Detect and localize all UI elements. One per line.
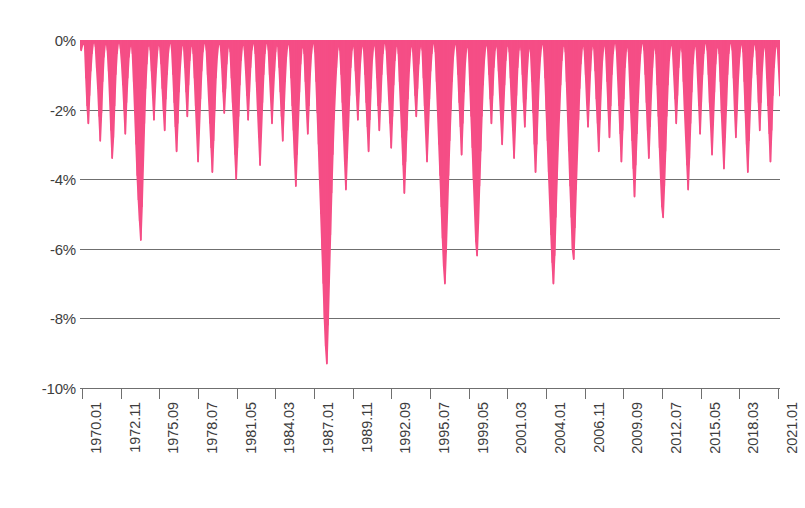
x-tick-label: 2021.01 [784,402,800,454]
x-tick-label: 1972.11 [127,402,143,453]
x-tick-label: 2015.05 [707,402,723,454]
x-tick-mark [739,388,740,399]
x-tick-mark [314,388,315,399]
x-tick-label: 1987.01 [320,402,336,454]
y-tick-label: -2% [0,101,76,118]
x-tick-mark [507,388,508,399]
x-tick-mark [469,388,470,399]
x-tick-label: 2001.03 [513,402,529,454]
y-tick-label: -8% [0,310,76,327]
x-tick-label: 1981.05 [243,402,259,454]
chart-container: 0%-2%-4%-6%-8%-10% 1970.011972.111975.09… [0,0,805,508]
x-tick-mark [546,388,547,399]
x-tick-label: 1975.09 [165,402,181,454]
y-tick-label: -4% [0,171,76,188]
drawdown-area-series [80,40,780,388]
y-tick-label: 0% [0,32,76,49]
plot-area [80,40,780,388]
x-tick-mark [121,388,122,399]
y-tick-label: -10% [0,380,76,397]
x-tick-mark [430,388,431,399]
x-tick-label: 1995.07 [436,402,452,454]
x-tick-label: 2009.09 [629,402,645,454]
x-tick-mark [778,388,779,399]
x-tick-label: 2018.03 [745,402,761,454]
x-tick-mark [585,388,586,399]
x-tick-label: 1984.03 [281,402,297,454]
x-tick-label: 1999.05 [475,402,491,454]
x-tick-mark [237,388,238,399]
x-tick-mark [198,388,199,399]
x-axis: 1970.011972.111975.091978.071981.051984.… [80,388,780,508]
x-tick-label: 2004.01 [552,402,568,454]
x-tick-mark [701,388,702,399]
x-tick-mark [391,388,392,399]
series-spikes [80,40,780,364]
x-tick-mark [662,388,663,399]
x-tick-mark [353,388,354,399]
x-tick-label: 1978.07 [204,402,220,454]
x-tick-label: 1970.01 [88,402,104,454]
x-tick-mark [82,388,83,399]
x-tick-mark [623,388,624,399]
x-tick-label: 1989.11 [359,402,375,453]
y-tick-label: -6% [0,240,76,257]
y-axis: 0%-2%-4%-6%-8%-10% [0,0,76,508]
x-tick-label: 1992.09 [397,402,413,454]
x-tick-mark [159,388,160,399]
x-tick-label: 2006.11 [591,402,607,453]
x-tick-mark [275,388,276,399]
x-tick-label: 2012.07 [668,402,684,454]
